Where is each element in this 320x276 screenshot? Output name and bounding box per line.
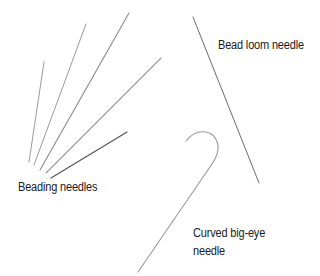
curved-needle-label-line1: Curved big-eye (193, 225, 265, 242)
beading-needles-label: Beading needles (18, 179, 97, 196)
curved-needle-label-line2: needle (193, 243, 225, 260)
beading-needle-1 (29, 62, 44, 162)
beading-needles (29, 13, 161, 178)
beading-needle-4 (46, 58, 161, 173)
beading-needle-3 (40, 13, 129, 170)
bead-loom-needle-label: Bead loom needle (218, 37, 304, 54)
beading-needle-5 (51, 132, 127, 178)
beading-needle-2 (34, 24, 86, 165)
